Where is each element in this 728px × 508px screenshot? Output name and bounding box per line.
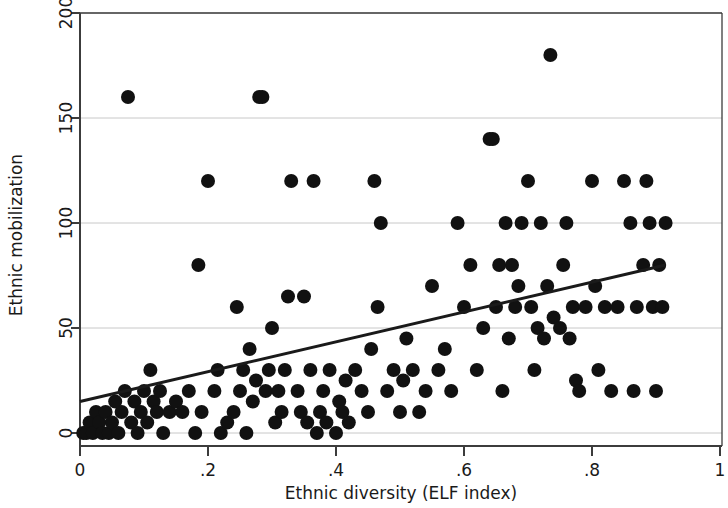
data-point [495,384,509,398]
data-point [425,279,439,293]
data-point [297,290,311,304]
data-point [476,321,490,335]
data-point [195,405,209,419]
x-tick-label: .8 [584,460,600,480]
data-point [572,384,586,398]
data-point [659,216,673,230]
data-point [275,405,289,419]
data-point [227,405,241,419]
data-point [249,374,263,388]
x-tick-label: .4 [328,460,344,480]
data-point [412,405,426,419]
data-point [611,300,625,314]
data-point [271,384,285,398]
data-point [598,300,612,314]
data-point [361,405,375,419]
data-point [348,363,362,377]
data-point [393,405,407,419]
data-point [451,216,465,230]
data-point [182,384,196,398]
data-point [143,363,157,377]
data-point [396,374,410,388]
data-point [191,258,205,272]
data-point [342,416,356,430]
data-point [150,405,164,419]
data-point [524,300,538,314]
data-point [419,384,433,398]
data-point [521,174,535,188]
data-point [380,384,394,398]
data-point [515,216,529,230]
data-point [463,258,477,272]
data-point [444,384,458,398]
y-tick-label: 100 [56,207,76,239]
data-point [188,426,202,440]
data-point [281,290,295,304]
data-point [527,363,541,377]
data-point [300,416,314,430]
data-point [111,426,125,440]
data-point [307,174,321,188]
data-point [371,300,385,314]
data-point [310,426,324,440]
x-axis-label: Ethnic diversity (ELF index) [285,483,517,503]
scatter-plot-figure: 050100150200 0.2.4.6.81 Ethnic diversity… [0,0,728,508]
data-point [153,384,167,398]
x-tick-label: 1 [715,460,726,480]
data-point [246,395,260,409]
y-tick-label: 150 [56,102,76,134]
data-point [505,258,519,272]
data-point [537,332,551,346]
data-point [511,279,525,293]
data-point [585,174,599,188]
data-point [230,300,244,314]
data-point [617,174,631,188]
data-point [627,384,641,398]
data-point [502,332,516,346]
data-point [406,363,420,377]
data-point [591,363,605,377]
data-point [579,300,593,314]
data-point [563,332,577,346]
data-point [534,216,548,230]
data-point [201,174,215,188]
data-point [259,384,273,398]
data-point [262,363,276,377]
data-point [339,374,353,388]
data-point [374,216,388,230]
data-point [367,174,381,188]
data-point [556,258,570,272]
data-point [630,300,644,314]
data-point [239,426,253,440]
data-point [655,300,669,314]
data-point [175,405,189,419]
data-point [559,216,573,230]
data-point [115,405,129,419]
x-tick-label: 0 [75,460,86,480]
data-point [265,321,279,335]
y-tick-label: 200 [56,0,76,29]
chart-canvas: 050100150200 0.2.4.6.81 Ethnic diversity… [0,0,728,508]
x-tick-label: .6 [456,460,472,480]
data-point [140,416,154,430]
data-point [438,342,452,356]
data-point [319,416,333,430]
data-point [643,216,657,230]
y-tick-label: 0 [56,428,76,439]
data-point [543,48,557,62]
x-tick-label: .2 [200,460,216,480]
data-point [499,216,513,230]
data-point [387,363,401,377]
data-point [355,384,369,398]
data-point [131,426,145,440]
data-point [121,90,135,104]
data-point [399,332,413,346]
data-point [470,363,484,377]
data-point [431,363,445,377]
data-point [492,258,506,272]
data-point [323,363,337,377]
data-point [329,426,343,440]
data-point [316,384,330,398]
data-point [207,384,221,398]
data-point [156,426,170,440]
